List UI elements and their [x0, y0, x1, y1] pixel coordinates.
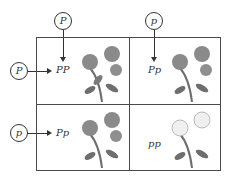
allele-label: P	[60, 15, 67, 26]
genotype-cell-2: Pp	[148, 64, 161, 75]
purple-flower-plant-icon	[166, 40, 218, 102]
genotype-cell-3: Pp	[56, 127, 69, 138]
genotype-cell-4: pp	[148, 138, 161, 149]
top-parent-allele-2: p	[145, 12, 163, 30]
purple-flower-plant-icon	[76, 40, 128, 102]
side-parent-allele-1: P	[10, 62, 28, 80]
top-parent-allele-1: P	[54, 12, 72, 30]
purple-flower-plant-icon	[76, 106, 128, 168]
allele-label: p	[16, 127, 22, 138]
allele-label: p	[151, 15, 157, 26]
white-flower-plant-icon	[166, 106, 218, 168]
side-parent-allele-2: p	[10, 124, 28, 142]
grid-divider-horizontal	[37, 104, 220, 105]
allele-label: P	[16, 65, 23, 76]
genotype-cell-1: PP	[56, 64, 69, 75]
